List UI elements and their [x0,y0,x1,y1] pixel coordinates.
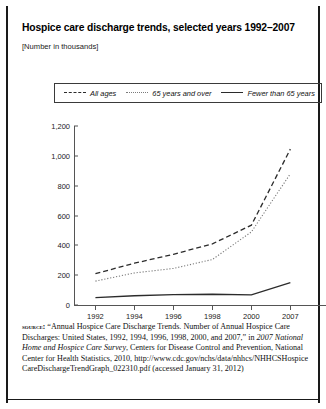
legend-label: Fewer than 65 years [247,89,314,98]
x-tick-label: 2000 [243,312,260,321]
x-tick-label: 1994 [126,312,143,321]
chart-legend: All ages 65 years and over Fewer than 65… [54,83,322,103]
legend-item-all-ages: All ages [64,89,116,98]
legend-label: 65 years and over [152,89,211,98]
series-line [95,283,290,298]
figure-panel: Hospice care discharge trends, selected … [6,6,320,403]
legend-item-65-and-over: 65 years and over [126,89,211,98]
legend-item-fewer-than-65: Fewer than 65 years [221,89,314,98]
plot-area: 02004006008001,0001,200 1992199419961998… [22,118,318,306]
source-keyword: source: [22,322,45,331]
legend-line-dotted-icon [126,90,148,96]
source-note: source: “Annual Hospice Care Discharge T… [22,322,314,375]
x-tick-label: 1996 [165,312,182,321]
x-tick-label: 1998 [204,312,221,321]
series-line [95,174,290,281]
legend-line-solid-icon [221,90,243,96]
legend-line-dashed-icon [64,90,86,96]
series-lines [22,118,318,306]
units-note: [Number in thousands] [22,42,98,51]
legend-label: All ages [90,89,116,98]
x-tick-label: 2007 [282,312,299,321]
x-tick-label: 1992 [87,312,104,321]
source-text-1: “Annual Hospice Care Discharge Trends. N… [22,322,290,342]
chart-title: Hospice care discharge trends, selected … [22,22,312,34]
bottom-rule [6,399,320,400]
series-line [95,149,290,274]
